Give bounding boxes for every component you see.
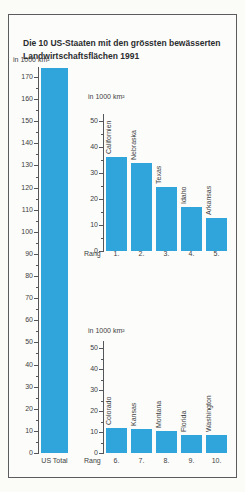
y-axis-tick-label: 140 <box>13 139 33 147</box>
y-axis-tick-label: 60 <box>13 316 33 324</box>
y-axis-major-tick <box>34 320 38 321</box>
y-axis-major-tick <box>34 232 38 233</box>
y-axis-major-tick <box>34 365 38 366</box>
y-axis-tick-label: 20 <box>13 405 33 413</box>
y-axis-tick-label: 10 <box>78 221 98 229</box>
y-axis-minor-tick <box>36 398 38 399</box>
y-axis-tick-label: 80 <box>13 272 33 280</box>
state-label: Nebraska <box>130 130 138 160</box>
y-axis-minor-tick <box>36 243 38 244</box>
y-axis-tick-label: 50 <box>78 117 98 125</box>
y-axis-tick-label: 150 <box>13 117 33 125</box>
y-axis-major-tick <box>34 188 38 189</box>
y-axis-minor-tick <box>36 331 38 332</box>
y-axis-minor-tick <box>101 212 103 213</box>
y-axis-minor-tick <box>36 199 38 200</box>
y-axis-tick-label: 130 <box>13 161 33 169</box>
y-axis-minor-tick <box>36 353 38 354</box>
y-axis-minor-tick <box>36 88 38 89</box>
state-label: Arkansas <box>205 186 213 215</box>
y-axis-minor-tick <box>36 420 38 421</box>
rank-label: 1. <box>107 250 127 257</box>
y-axis-major-tick <box>34 342 38 343</box>
y-axis-tick-label: 110 <box>13 206 33 214</box>
y-axis-tick-label: 40 <box>78 143 98 151</box>
state-label: Idaho <box>180 186 188 204</box>
y-axis-major-tick <box>99 147 103 148</box>
y-axis-major-tick <box>34 276 38 277</box>
y-axis-minor-tick <box>36 265 38 266</box>
y-axis-minor-tick <box>101 401 103 402</box>
rank-label: 10. <box>207 457 227 464</box>
y-axis-major-tick <box>34 453 38 454</box>
state-label: Kansas <box>130 403 138 426</box>
y-axis-major-tick <box>34 431 38 432</box>
y-axis-tick-label: 170 <box>13 73 33 81</box>
y-axis-tick-label: 10 <box>78 428 98 436</box>
y-axis-tick-label: 90 <box>13 250 33 258</box>
state-label: Washington <box>205 395 213 432</box>
state-label: Colorado <box>105 397 113 425</box>
y-axis-major-tick <box>99 453 103 454</box>
y-axis-minor-tick <box>36 376 38 377</box>
y-axis-line <box>103 114 104 252</box>
bar-florida <box>181 435 202 453</box>
rank-label: 8. <box>157 457 177 464</box>
y-axis-major-tick <box>34 210 38 211</box>
y-axis-major-tick <box>34 121 38 122</box>
y-axis-major-tick <box>99 411 103 412</box>
y-axis-tick-label: 120 <box>13 184 33 192</box>
y-axis-tick-label: 20 <box>78 195 98 203</box>
state-label: Texas <box>155 166 163 184</box>
y-axis-tick-label: 0 <box>13 449 33 457</box>
y-axis-tick-label: 50 <box>13 338 33 346</box>
y-axis-minor-tick <box>101 380 103 381</box>
rank-label: 4. <box>182 250 202 257</box>
y-axis-major-tick <box>99 173 103 174</box>
bar-idaho <box>181 207 202 251</box>
y-axis-tick-label: 40 <box>13 361 33 369</box>
y-axis-major-tick <box>34 387 38 388</box>
y-axis-tick-label: 10 <box>13 427 33 435</box>
y-axis-line <box>38 67 39 454</box>
y-axis-tick-label: 30 <box>13 383 33 391</box>
y-axis-major-tick <box>34 254 38 255</box>
y-axis-minor-tick <box>101 359 103 360</box>
bar-nebraska <box>131 163 152 251</box>
rank-label: 3. <box>157 250 177 257</box>
bar-colorado <box>106 428 127 453</box>
y-axis-tick-label: 20 <box>78 407 98 415</box>
y-axis-tick-label: 40 <box>78 365 98 373</box>
rank-label: 2. <box>132 250 152 257</box>
y-axis-major-tick <box>34 99 38 100</box>
y-axis-major-tick <box>99 199 103 200</box>
y-axis-minor-tick <box>101 160 103 161</box>
bar-washington <box>206 435 227 453</box>
y-axis-major-tick <box>34 409 38 410</box>
chart-title: Die 10 US-Staaten mit den grössten bewäs… <box>23 37 239 62</box>
y-axis-minor-tick <box>101 422 103 423</box>
y-axis-major-tick <box>99 225 103 226</box>
chart-title-line1: Die 10 US-Staaten mit den grössten bewäs… <box>23 37 239 50</box>
y-axis-tick-label: 0 <box>78 449 98 457</box>
state-label: Florida <box>180 411 188 432</box>
bar-texas <box>156 187 177 251</box>
y-axis-major-tick <box>34 77 38 78</box>
rank-label: 5. <box>207 250 227 257</box>
rank-label: 9. <box>182 457 202 464</box>
y-axis-tick-label: 100 <box>13 228 33 236</box>
rank-label: 6. <box>107 457 127 464</box>
bar-arkansas <box>206 218 227 251</box>
y-axis-minor-tick <box>36 154 38 155</box>
bar-kansas <box>131 429 152 453</box>
rank-label: 7. <box>132 457 152 464</box>
x-category-label: US Total <box>30 457 80 464</box>
y-axis-tick-label: 30 <box>78 169 98 177</box>
bar-californien <box>106 157 127 251</box>
y-axis-major-tick <box>99 432 103 433</box>
y-axis-minor-tick <box>36 132 38 133</box>
bar-us-total <box>41 68 68 453</box>
y-axis-major-tick <box>34 165 38 166</box>
y-axis-minor-tick <box>36 287 38 288</box>
y-axis-unit-label: in 1000 km² <box>88 327 125 334</box>
